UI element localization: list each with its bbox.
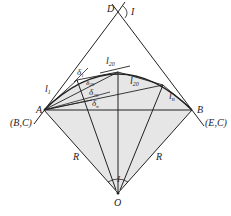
label-bc: (B,C) bbox=[10, 117, 33, 129]
label-d: D bbox=[106, 3, 115, 14]
curve-diagram: D I A B (B,C) (E,C) R R I O l1 l20 l20 l… bbox=[0, 0, 231, 216]
label-r-right: R bbox=[155, 151, 162, 162]
label-l20-top: l20 bbox=[106, 55, 115, 67]
label-o: O bbox=[114, 197, 121, 208]
label-r-left: R bbox=[72, 151, 79, 162]
label-b: B bbox=[197, 104, 203, 115]
label-a: A bbox=[35, 104, 43, 115]
angle-arc-d bbox=[123, 6, 127, 18]
label-ln: ln bbox=[169, 90, 175, 102]
tangent-at-point bbox=[100, 66, 130, 73]
label-ec: (E,C) bbox=[205, 117, 228, 129]
label-l1: l1 bbox=[45, 83, 51, 95]
label-i-top: I bbox=[130, 6, 135, 17]
label-delta1: δ1 bbox=[77, 67, 84, 78]
center-point bbox=[117, 192, 120, 195]
